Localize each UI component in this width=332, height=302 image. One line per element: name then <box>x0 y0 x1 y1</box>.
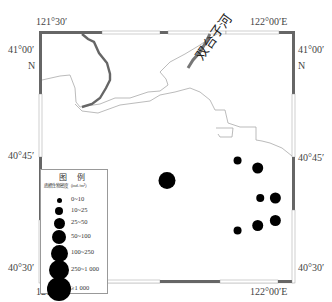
legend-symbol-1 <box>57 198 62 203</box>
station-5 <box>270 193 281 204</box>
legend-symbol-2 <box>55 207 63 215</box>
lat-label-right-4045: 40°45′ <box>298 152 324 163</box>
station-8 <box>270 215 281 226</box>
legend-label-6: 250~1 000 <box>71 265 99 272</box>
lat-label-right-4030: 40°30′ <box>298 262 324 273</box>
lat-label-left-n: N <box>28 60 35 71</box>
lat-label-right-41: 41°00′ <box>298 44 324 55</box>
lat-label-left-4045: 40°45′ <box>8 150 34 161</box>
legend-label-3: 25~50 <box>71 218 88 225</box>
legend-label-7: ≥1 000 <box>71 284 89 291</box>
legend-title: 图 例 <box>41 171 107 182</box>
lat-label-left-41: 41°00′ <box>8 44 34 55</box>
legend-symbol-5 <box>51 245 68 262</box>
lon-label-bottom-right: 122°00′E <box>250 286 287 297</box>
lon-label-top-right: 122°00′E <box>250 16 287 27</box>
legend-label-5: 100~250 <box>71 248 94 255</box>
station-1 <box>159 172 176 189</box>
station-7 <box>252 220 263 231</box>
lat-label-left-4030: 40°30′ <box>8 262 34 273</box>
legend: 图 例 底栖生物密度（ind./m²） 0~1010~2525~5050~100… <box>40 169 108 294</box>
lon-label-top-left: 121°30′ <box>36 16 67 27</box>
legend-symbol-3 <box>54 218 65 229</box>
legend-symbol-4 <box>52 230 66 244</box>
station-3 <box>252 163 263 174</box>
station-2 <box>234 157 242 165</box>
station-4 <box>256 194 264 202</box>
legend-label-1: 0~10 <box>71 195 84 202</box>
station-6 <box>234 227 242 235</box>
legend-label-4: 50~100 <box>71 232 91 239</box>
lat-label-right-n: N <box>298 60 305 71</box>
legend-label-2: 10~25 <box>71 206 88 213</box>
legend-unit: 底栖生物密度（ind./m²） <box>44 182 107 188</box>
legend-symbol-7 <box>47 277 71 301</box>
